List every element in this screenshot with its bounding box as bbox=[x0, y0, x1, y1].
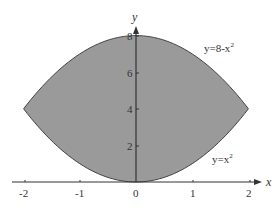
y-tick-label: 6 bbox=[127, 67, 133, 79]
y-tick-label: 4 bbox=[127, 103, 133, 115]
x-tick-label: 0 bbox=[133, 187, 139, 199]
y-axis-arrow-icon bbox=[133, 26, 139, 34]
x-axis-label: x bbox=[265, 175, 272, 189]
y-axis-label: y bbox=[131, 10, 138, 24]
y-tick-label: 8 bbox=[127, 30, 133, 42]
upper-curve-label: y=8-x2 bbox=[204, 41, 234, 54]
x-tick-label: 2 bbox=[246, 187, 252, 199]
x-tick-label: -1 bbox=[75, 187, 84, 199]
x-tick-label: 1 bbox=[190, 187, 196, 199]
x-tick-label: -2 bbox=[19, 187, 28, 199]
chart-canvas: x y -2 -1 0 1 2 2 4 6 8 y=8-x2 y=x2 bbox=[0, 0, 280, 214]
lower-curve-label: y=x2 bbox=[212, 152, 233, 165]
x-axis-arrow-icon bbox=[254, 179, 262, 185]
x-ticks: -2 -1 0 1 2 bbox=[19, 180, 252, 199]
y-tick-label: 2 bbox=[127, 140, 133, 152]
